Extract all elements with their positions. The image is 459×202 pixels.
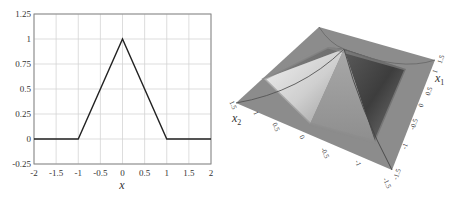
x-tick-label: 1.5	[183, 168, 195, 178]
x2-tick-label: 1.5	[227, 99, 238, 111]
line-chart: -2-1.5-1-0.500.511.52 -0.2500.250.50.751…	[12, 9, 213, 192]
x2-tick-label: 0	[297, 134, 306, 141]
y-tick-labels: -0.2500.250.50.7511.25	[12, 9, 31, 169]
x2-tick-label: 1	[251, 110, 260, 117]
x1-tick-label: 0.5	[424, 85, 435, 96]
x-tick-label: 0.5	[139, 168, 151, 178]
x-tick-label: -1.5	[49, 168, 64, 178]
x1-tick-label: -1.5	[391, 167, 402, 181]
x-tick-label: -1	[75, 168, 83, 178]
y-tick-label: 0.25	[15, 109, 31, 119]
surface-plot: 1.510.50-0.5-1-1.5 1.510.50-0.5-1-1.5 x2…	[227, 27, 446, 190]
x2-tick-label: -0.5	[319, 146, 331, 160]
y-tick-label: 0	[27, 134, 32, 144]
x-tick-label: -2	[30, 168, 38, 178]
y-tick-label: 1.25	[15, 9, 31, 19]
y-tick-label: 0.5	[20, 84, 32, 94]
x2-tick-label: 0.5	[270, 121, 281, 133]
y-tick-label: 1	[27, 34, 32, 44]
x1-tick-label: 0	[417, 102, 426, 108]
x1-tick-label: 1.5	[436, 53, 447, 64]
x-tick-label: -0.5	[93, 168, 108, 178]
y-tick-label: -0.25	[12, 159, 31, 169]
x-tick-label: 0	[120, 168, 125, 178]
figure: -2-1.5-1-0.500.511.52 -0.2500.250.50.751…	[0, 0, 459, 202]
x-tick-label: 2	[209, 168, 214, 178]
x1-axis-label: x1	[434, 71, 444, 87]
x-tick-label: 1	[165, 168, 170, 178]
x-axis-label: x	[118, 178, 125, 192]
y-tick-label: 0.75	[15, 59, 31, 69]
x2-tick-label: -1	[353, 159, 363, 168]
x1-tick-label: -1	[400, 142, 410, 151]
x-tick-labels: -2-1.5-1-0.500.511.52	[30, 168, 213, 178]
x2-axis-label: x2	[231, 111, 241, 127]
